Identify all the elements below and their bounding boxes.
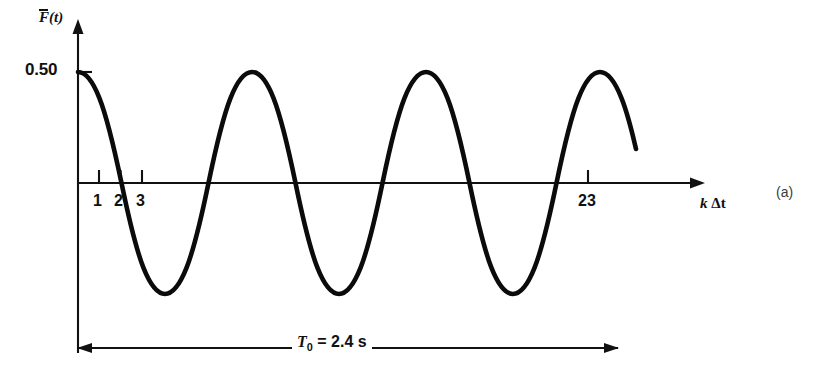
x-tick-label-3: 3: [136, 192, 145, 210]
period-arrow-right: [604, 343, 619, 353]
x-axis-label-delta-t: Δt: [708, 195, 726, 211]
period-value: 2.4 s: [331, 333, 367, 350]
y-axis-label-argument: (t): [49, 9, 63, 25]
period-arrow-left: [77, 343, 92, 353]
period-equals: =: [313, 333, 331, 350]
y-axis-label: F(t): [39, 9, 63, 25]
y-axis-arrowhead: [73, 19, 84, 34]
x-tick-label-1: 1: [93, 192, 102, 210]
panel-caption: (a): [776, 185, 793, 199]
period-annotation-label: T0 = 2.4 s: [292, 334, 372, 353]
y-tick-label-050: 0.50: [25, 61, 57, 78]
plot-canvas: [0, 0, 832, 378]
x-axis-label-k: k: [700, 195, 708, 211]
x-tick-label-23: 23: [578, 192, 596, 210]
figure-container: F(t) 0.50 k Δt 1 2 3 23 T0 = 2.4 s (a): [0, 0, 832, 378]
x-axis-group: [78, 170, 705, 189]
x-axis-label: k Δt: [700, 196, 726, 211]
x-tick-label-2: 2: [114, 192, 123, 210]
x-axis-arrowhead: [690, 178, 705, 189]
period-symbol: T: [297, 333, 307, 350]
y-axis-label-symbol: F: [39, 10, 49, 25]
y-axis-group: [73, 19, 93, 353]
